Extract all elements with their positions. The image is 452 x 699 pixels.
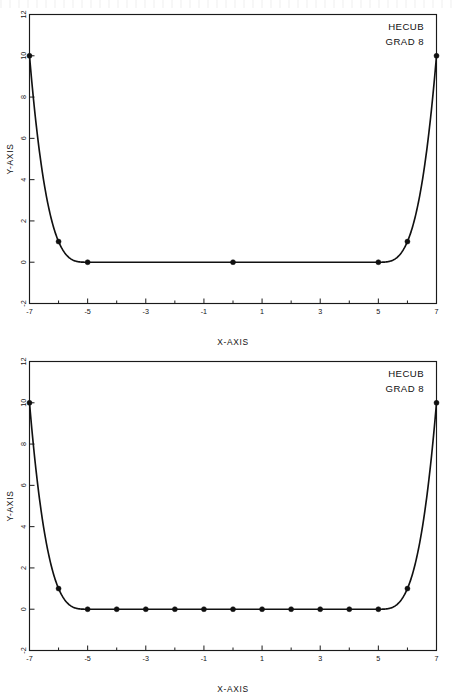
bottom-y-axis-title: Y-AXIS (5, 491, 15, 522)
x-tick-label: 3 (318, 654, 322, 663)
y-tick-label: -2 (19, 300, 28, 306)
y-tick-label: 10 (19, 399, 28, 407)
top-y-axis-title: Y-AXIS (5, 144, 15, 175)
data-point-marker (85, 607, 90, 612)
x-tick-label: -7 (26, 654, 32, 663)
data-point-marker (260, 607, 265, 612)
top-x-ticks (30, 299, 437, 304)
x-tick-label: -1 (201, 654, 207, 663)
y-tick-label: -2 (19, 647, 28, 653)
top-x-axis-title: X-AXIS (217, 337, 249, 347)
data-point-marker (85, 260, 90, 265)
data-point-marker (143, 607, 148, 612)
bottom-plot-canvas: -7-5-3-11357 -2024681012 X-AXIS Y-AXIS H… (0, 350, 452, 699)
x-tick-label: -1 (201, 307, 207, 316)
bottom-annotation-line1: HECUB (388, 368, 424, 379)
data-point-marker (231, 260, 236, 265)
data-point-marker (231, 607, 236, 612)
top-annotation-line2: GRAD 8 (386, 36, 424, 47)
y-tick-label: 4 (19, 525, 28, 529)
data-point-marker (27, 400, 32, 405)
x-tick-label: 7 (435, 307, 439, 316)
x-tick-label: 5 (376, 307, 380, 316)
x-tick-label: -7 (26, 307, 32, 316)
data-point-marker (347, 607, 352, 612)
data-point-marker (405, 239, 410, 244)
x-tick-label: 3 (318, 307, 322, 316)
bottom-data-curve (30, 403, 437, 609)
data-point-marker (376, 260, 381, 265)
data-point-marker (56, 586, 61, 591)
scanned-figure-page: -7-5-3-11357 -2024681012 X-AXIS Y-AXIS H… (0, 0, 452, 699)
top-data-curve (30, 56, 437, 262)
y-tick-label: 0 (19, 607, 28, 611)
data-point-marker (27, 53, 32, 58)
bottom-annotation-line2: GRAD 8 (386, 383, 424, 394)
x-tick-label: -5 (84, 654, 90, 663)
y-tick-label: 12 (19, 358, 28, 366)
bottom-figure: -7-5-3-11357 -2024681012 X-AXIS Y-AXIS H… (0, 350, 452, 699)
y-tick-label: 2 (19, 219, 28, 223)
y-tick-label: 6 (19, 483, 28, 487)
data-point-marker (318, 607, 323, 612)
top-data-markers (27, 53, 439, 264)
y-tick-label: 10 (19, 52, 28, 60)
top-annotation-line1: HECUB (388, 21, 424, 32)
data-point-marker (114, 607, 119, 612)
bottom-x-tick-labels: -7-5-3-11357 (26, 654, 438, 663)
x-tick-label: 5 (376, 654, 380, 663)
y-tick-label: 8 (19, 95, 28, 99)
data-point-marker (405, 586, 410, 591)
data-point-marker (376, 607, 381, 612)
y-tick-label: 8 (19, 442, 28, 446)
x-tick-label: -3 (143, 654, 149, 663)
data-point-marker (56, 239, 61, 244)
data-point-marker (434, 53, 439, 58)
top-x-tick-labels: -7-5-3-11357 (26, 307, 438, 316)
x-tick-label: -3 (143, 307, 149, 316)
bottom-y-tick-labels: -2024681012 (19, 358, 28, 654)
data-point-marker (434, 400, 439, 405)
data-point-marker (201, 607, 206, 612)
bottom-x-axis-title: X-AXIS (217, 684, 249, 694)
y-tick-label: 0 (19, 260, 28, 264)
bottom-data-markers (27, 400, 439, 611)
x-tick-label: 7 (435, 654, 439, 663)
data-point-marker (172, 607, 177, 612)
x-tick-label: 1 (260, 654, 264, 663)
top-plot-canvas: -7-5-3-11357 -2024681012 X-AXIS Y-AXIS H… (0, 0, 452, 349)
top-figure: -7-5-3-11357 -2024681012 X-AXIS Y-AXIS H… (0, 0, 452, 349)
data-point-marker (289, 607, 294, 612)
x-tick-label: -5 (84, 307, 90, 316)
y-tick-label: 12 (19, 11, 28, 19)
y-tick-label: 4 (19, 178, 28, 182)
x-tick-label: 1 (260, 307, 264, 316)
y-tick-label: 6 (19, 136, 28, 140)
bottom-x-ticks (30, 646, 437, 651)
y-tick-label: 2 (19, 566, 28, 570)
top-y-tick-labels: -2024681012 (19, 11, 28, 307)
